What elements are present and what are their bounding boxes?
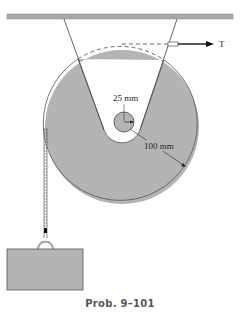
hanging-block xyxy=(7,249,83,290)
force-arrowhead xyxy=(206,41,214,47)
disk-radius-label: 100 mm xyxy=(144,141,174,151)
figure-caption: Prob. 9–101 xyxy=(0,298,240,309)
pulley-diagram: 25 mm 100 mm T xyxy=(0,0,240,322)
force-label: T xyxy=(219,39,225,49)
hook-ring xyxy=(38,242,53,250)
hub-radius-label: 25 mm xyxy=(113,93,138,103)
cable-end xyxy=(168,42,178,46)
ceiling-support xyxy=(7,14,233,19)
